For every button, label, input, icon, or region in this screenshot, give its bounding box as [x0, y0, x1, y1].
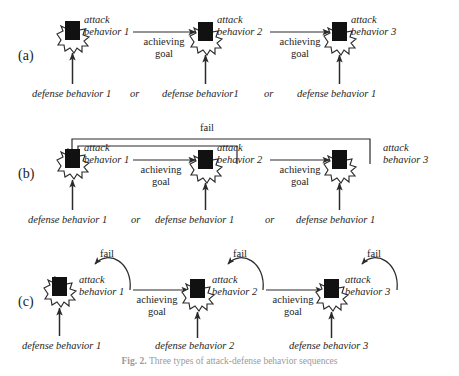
- node-3-attack-label: attack behavior 3: [383, 142, 428, 165]
- node-1-attack-line1: attack: [84, 142, 110, 153]
- transition-1-label: achieving goal: [129, 294, 185, 317]
- fail-label-b: fail: [200, 122, 214, 134]
- node-1-attack-label: attack behavior 1: [84, 142, 129, 165]
- node-2-attack-label: attack behavior 2: [217, 14, 262, 37]
- node-1-defense-label: defense behavior 1: [28, 214, 107, 226]
- transition-2-label: achieving goal: [272, 36, 328, 59]
- node-3-attack-label: attack behavior 3: [345, 274, 390, 297]
- transition-1-line2: goal: [133, 176, 189, 188]
- node-3-defense-label: defense behavior 1: [297, 88, 376, 100]
- node-3-glyph: [324, 150, 356, 183]
- node-3-defense-label: defense behavior 3: [289, 340, 368, 352]
- node-1-attack-line2: behavior 1: [84, 154, 129, 166]
- fail-label-c-1: fail: [100, 248, 114, 260]
- transition-2-line1: achieving: [280, 36, 321, 47]
- node-2-attack-line2: behavior 2: [217, 26, 262, 38]
- transition-2-line1: achieving: [273, 294, 314, 305]
- node-2-attack-line2: behavior 2: [212, 286, 257, 298]
- transition-1-line1: achieving: [144, 36, 185, 47]
- figure-caption-text: Three types of attack-defense behavior s…: [149, 356, 338, 366]
- node-1-defense-label: defense behavior 1: [32, 88, 111, 100]
- node-3-attack-label: attack behavior 3: [351, 14, 396, 37]
- transition-1-line2: goal: [129, 306, 185, 318]
- fail-label-c-2: fail: [233, 248, 247, 260]
- fail-label-c-3: fail: [367, 248, 381, 260]
- transition-2-line2: goal: [265, 306, 321, 318]
- transition-1-line1: achieving: [141, 164, 182, 175]
- transition-1-label: achieving goal: [133, 164, 189, 187]
- panel-c: (c): [0, 236, 459, 354]
- node-3-defense-label: defense behavior 1: [296, 214, 375, 226]
- node-3-attack-line1: attack: [383, 142, 409, 153]
- figure-caption: Fig. 2. Three types of attack-defense be…: [0, 356, 459, 376]
- separator-1: or: [131, 214, 140, 226]
- node-1-attack-label: attack behavior 1: [79, 274, 124, 297]
- figure-container: (a): [0, 0, 459, 376]
- node-1-glyph: [44, 277, 76, 307]
- transition-2-label: achieving goal: [272, 164, 328, 187]
- figure-caption-label: Fig. 2.: [121, 356, 146, 366]
- separator-1: or: [130, 88, 139, 100]
- node-1-attack-line2: behavior 1: [79, 286, 124, 298]
- transition-2-line2: goal: [272, 48, 328, 60]
- transition-1-line2: goal: [136, 48, 192, 60]
- node-2-attack-line1: attack: [212, 274, 238, 285]
- node-2-attack-line1: attack: [217, 142, 243, 153]
- node-2-attack-label: attack behavior 2: [217, 142, 262, 165]
- node-2-attack-line2: behavior 2: [217, 154, 262, 166]
- node-2-glyph: [182, 279, 214, 311]
- node-1-defense-label: defense behavior 1: [22, 340, 101, 352]
- node-1-attack-line1: attack: [84, 14, 110, 25]
- node-2-defense-label: defense behavior 1: [155, 214, 234, 226]
- node-2-defense-label: defense behavior 2: [155, 340, 234, 352]
- transition-1-line1: achieving: [137, 294, 178, 305]
- node-1-attack-line1: attack: [79, 274, 105, 285]
- node-3-attack-line2: behavior 3: [383, 154, 428, 166]
- node-3-attack-line1: attack: [345, 274, 371, 285]
- node-2-attack-line1: attack: [217, 14, 243, 25]
- panel-b: (b): [0, 118, 459, 236]
- node-3-attack-line2: behavior 3: [345, 286, 390, 298]
- node-2-defense-label: defense behavior1: [162, 88, 239, 100]
- node-2-attack-label: attack behavior 2: [212, 274, 257, 297]
- transition-2-label: achieving goal: [265, 294, 321, 317]
- node-1-attack-line2: behavior 1: [84, 26, 129, 38]
- transition-2-line1: achieving: [280, 164, 321, 175]
- separator-2: or: [264, 88, 273, 100]
- transition-1-label: achieving goal: [136, 36, 192, 59]
- node-1-attack-label: attack behavior 1: [84, 14, 129, 37]
- node-3-attack-line1: attack: [351, 14, 377, 25]
- transition-2-line2: goal: [272, 176, 328, 188]
- separator-2: or: [265, 214, 274, 226]
- panel-a: (a): [0, 0, 459, 118]
- node-3-attack-line2: behavior 3: [351, 26, 396, 38]
